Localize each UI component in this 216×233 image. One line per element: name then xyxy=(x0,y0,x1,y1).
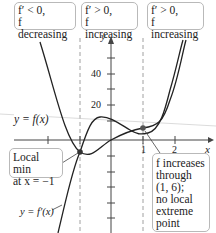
inflection-line2: through xyxy=(156,169,206,181)
local-min-callout: Local min at x = −1 xyxy=(9,148,63,178)
local-min-point xyxy=(77,149,83,155)
interval-box-right: f′ > 0, f increasing xyxy=(147,2,204,30)
y-axis-label: y xyxy=(101,31,105,43)
interval-middle-line1: f′ > 0, xyxy=(85,4,134,16)
inflection-line4: no local xyxy=(156,193,206,205)
y-tick-label-20: 20 xyxy=(91,99,101,111)
inflection-line5: extreme xyxy=(156,205,206,217)
inflection-callout: f increases through (1, 6); no local ext… xyxy=(152,153,210,232)
interval-box-middle: f′ > 0, f increasing xyxy=(81,2,138,30)
inflection-point xyxy=(140,125,146,131)
interval-middle-line2: f increasing xyxy=(85,16,134,40)
x-tick-label-1: 1 xyxy=(141,144,146,156)
fprime-curve-label: y = f′(x) xyxy=(20,206,54,218)
interval-box-left: f′ < 0, f decreasing xyxy=(14,2,76,30)
inflection-line1: f increases xyxy=(156,157,206,169)
interval-left-line2: f decreasing xyxy=(18,16,72,40)
f-curve xyxy=(40,40,186,154)
local-min-line1: Local min xyxy=(13,151,59,175)
local-min-line2: at x = −1 xyxy=(13,175,59,187)
inflection-line3: (1, 6); xyxy=(156,181,206,193)
inflection-line6: point xyxy=(156,217,206,229)
interval-right-line2: f increasing xyxy=(151,16,200,40)
interval-right-line1: f′ > 0, xyxy=(151,4,200,16)
y-tick-label-40: 40 xyxy=(91,68,101,80)
f-curve-label: y = f(x) xyxy=(14,113,49,125)
local-min-leader xyxy=(62,153,78,163)
interval-left-line1: f′ < 0, xyxy=(18,4,72,16)
